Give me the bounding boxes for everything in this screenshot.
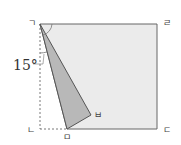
vertex-label-fold-bottom: ㅁ — [63, 133, 71, 142]
vertex-label-top-left: ㄱ — [28, 19, 36, 28]
vertex-label-bottom-right: ㄷ — [163, 126, 171, 135]
vertex-label-fold-point: ㅂ — [94, 111, 102, 120]
angle-leader-up — [43, 54, 44, 64]
angle-arc-15 — [40, 52, 47, 53]
angle-label: 15° — [13, 58, 38, 72]
vertex-label-bottom-left: ㄴ — [27, 126, 35, 135]
vertex-label-top-right: ㄹ — [163, 19, 171, 28]
